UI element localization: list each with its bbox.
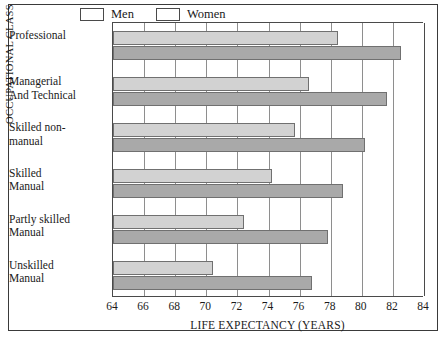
legend-label-women: Women [187, 8, 226, 21]
x-tick-label-78: 78 [324, 300, 336, 312]
category-group: Partly skilledManual [113, 206, 423, 252]
category-label-line: Manual [9, 180, 105, 194]
x-tick-label-80: 80 [355, 300, 367, 312]
chart-legend: Men Women [80, 5, 226, 23]
x-tick-label-82: 82 [386, 300, 398, 312]
x-axis-tick-labels: 6466687072747678808284 [112, 300, 423, 316]
x-tick-label-68: 68 [168, 300, 180, 312]
category-group: UnskilledManual [113, 252, 423, 298]
category-label-line: Manual [9, 272, 105, 286]
category-label-line: Managerial [9, 75, 105, 89]
bar-men [113, 215, 244, 229]
category-label-line: Partly skilled [9, 213, 105, 227]
category-label: Skilled non-manual [9, 121, 113, 148]
x-tick-label-84: 84 [417, 300, 429, 312]
x-tick-label-74: 74 [262, 300, 274, 312]
x-tick-label-72: 72 [231, 300, 243, 312]
category-label: SkilledManual [9, 167, 113, 194]
category-label: UnskilledManual [9, 259, 113, 286]
x-tick-label-66: 66 [137, 300, 149, 312]
bar-women [113, 230, 328, 244]
bar-women [113, 138, 365, 152]
category-label-line: Skilled [9, 167, 105, 181]
category-label: ManagerialAnd Technical [9, 75, 113, 102]
legend-swatch-women [156, 8, 180, 21]
category-label-line: And Technical [9, 89, 105, 103]
legend-swatch-men [80, 8, 104, 21]
chart-figure: Men Women OCCUPATIONAL CLASS Professiona… [0, 0, 446, 337]
y-axis-title: OCCUPATIONAL CLASS [4, 0, 15, 124]
category-label-line: Skilled non- [9, 121, 105, 135]
bar-men [113, 77, 309, 91]
bar-women [113, 92, 387, 106]
bar-women [113, 276, 312, 290]
bar-women [113, 46, 401, 60]
legend-entry-women: Women [156, 8, 226, 21]
category-label-line: Manual [9, 226, 105, 240]
category-group: SkilledManual [113, 161, 423, 207]
category-group: ManagerialAnd Technical [113, 69, 423, 115]
category-label: Professional [9, 29, 113, 43]
category-group: Professional [113, 23, 423, 69]
plot-area: ProfessionalManagerialAnd TechnicalSkill… [112, 22, 423, 297]
legend-label-men: Men [111, 8, 134, 21]
bar-men [113, 123, 295, 137]
legend-entry-men: Men [80, 8, 134, 21]
category-label: Partly skilledManual [9, 213, 113, 240]
x-tick-label-64: 64 [106, 300, 118, 312]
category-label-line: manual [9, 135, 105, 149]
x-axis-title: LIFE EXPECTANCY (YEARS) [112, 319, 423, 331]
category-label-line: Unskilled [9, 259, 105, 273]
x-tick-label-70: 70 [200, 300, 212, 312]
x-tick-label-76: 76 [293, 300, 305, 312]
bar-men [113, 169, 272, 183]
category-group: Skilled non-manual [113, 115, 423, 161]
category-label-line: Professional [9, 29, 105, 43]
bar-women [113, 184, 343, 198]
bar-men [113, 261, 213, 275]
bar-men [113, 31, 338, 45]
gridline-84 [424, 23, 425, 296]
